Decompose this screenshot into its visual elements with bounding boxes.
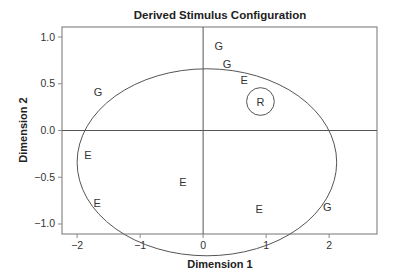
y-tick-label: 0.5 (40, 77, 55, 89)
y-axis-label: Dimension 2 (17, 97, 29, 162)
derived-stimulus-chart: Derived Stimulus Configuration Dimension… (0, 0, 393, 278)
x-axis-label: Dimension 1 (187, 258, 252, 270)
y-tick-label: −0.5 (34, 171, 55, 183)
chart-canvas: Derived Stimulus Configuration Dimension… (0, 0, 393, 278)
enclosing-ellipse (77, 69, 337, 256)
point-label-e: E (84, 149, 91, 161)
y-tick-label: −1.0 (34, 217, 55, 229)
point-label-e: E (94, 197, 101, 209)
point-label-r: R (256, 96, 264, 108)
y-tick-label: 1.0 (40, 31, 55, 43)
point-label-g: G (323, 201, 332, 213)
point-label-g: G (223, 58, 232, 70)
point-label-g: G (215, 40, 224, 52)
x-tick-label: 2 (326, 239, 332, 251)
point-label-e: E (256, 203, 263, 215)
point-label-g: G (94, 86, 103, 98)
x-tick-label: −2 (71, 239, 83, 251)
point-label-e: E (240, 74, 247, 86)
y-tick-label: 0.0 (40, 124, 55, 136)
x-tick-label: 0 (200, 239, 206, 251)
point-label-e: E (179, 176, 186, 188)
chart-title: Derived Stimulus Configuration (134, 9, 307, 21)
plot-area: −2−10121.00.50.0−0.5−1.0GGERGEEEEG (34, 27, 377, 256)
